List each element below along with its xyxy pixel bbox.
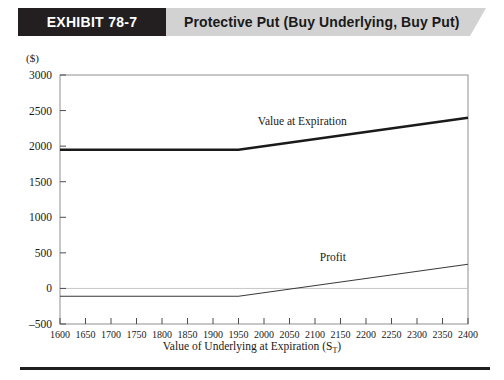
series-label-value-at-expiration: Value at Expiration [258,115,347,128]
series-label-profit: Profit [320,251,347,263]
y-tick-label: –500 [28,318,52,330]
x-tick-label: 2300 [407,329,427,340]
y-tick-label: 1000 [29,211,52,223]
y-tick-label: 500 [35,247,53,259]
x-tick-label: 1900 [203,329,223,340]
x-tick-label: 2050 [280,329,300,340]
exhibit-title: Protective Put (Buy Underlying, Buy Put) [184,8,459,36]
plot-frame [60,75,468,324]
x-tick-label: 1750 [127,329,147,340]
chart-plot: –500050010001500200025003000160016501700… [0,40,504,370]
x-tick-label: 2100 [305,329,325,340]
x-tick-label: 2200 [356,329,376,340]
x-tick-label: 1700 [101,329,121,340]
x-tick-label: 1600 [50,329,70,340]
bottom-divider-rule [20,367,490,370]
x-tick-label: 2250 [382,329,402,340]
x-tick-label: 1650 [76,329,96,340]
x-axis-title-main: Value of Underlying at Expiration (S [163,340,333,352]
y-tick-label: 3000 [29,69,52,81]
x-tick-label: 2350 [433,329,453,340]
series-line-profit [60,264,468,296]
y-tick-label: 0 [46,282,52,294]
x-axis-title-close: ) [337,340,341,352]
y-tick-label: 2000 [29,140,52,152]
y-tick-label: 1500 [29,176,52,188]
x-axis-title: Value of Underlying at Expiration (ST) [0,340,504,355]
exhibit-header: EXHIBIT 78-7 Protective Put (Buy Underly… [18,8,486,36]
exhibit-number-label: EXHIBIT 78-7 [47,14,138,30]
exhibit-tag-block: EXHIBIT 78-7 [18,8,166,36]
x-tick-label: 1800 [152,329,172,340]
x-tick-label: 2400 [458,329,478,340]
y-tick-label: 2500 [29,105,52,117]
x-tick-label: 2150 [331,329,351,340]
x-tick-label: 2000 [254,329,274,340]
x-tick-label: 1950 [229,329,249,340]
x-tick-label: 1850 [178,329,198,340]
chart-figure: ($) –50005001000150020002500300016001650… [0,40,504,370]
